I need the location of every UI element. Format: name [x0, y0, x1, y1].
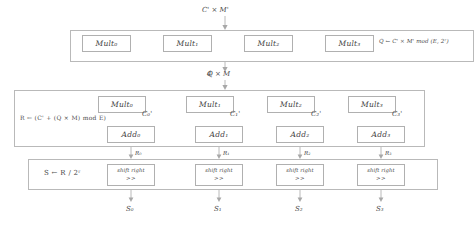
shift-right-unit-2[interactable]: shift right >>: [276, 164, 324, 186]
shift-right-unit-0[interactable]: shift right >>: [107, 164, 155, 186]
q-times-m-label: Q × M: [207, 70, 230, 78]
side-input-c0: C₀': [142, 110, 152, 118]
top-input-label: C' × M': [202, 6, 229, 14]
mult-unit-3[interactable]: Mult₃: [325, 35, 374, 52]
signal-r3: R₃: [385, 150, 391, 156]
side-input-c2: C₂': [311, 110, 321, 118]
signal-r1: R₁: [223, 150, 229, 156]
stage-multiply-formula: Q ← C' × M' mod (E, 2ʳ): [379, 38, 449, 44]
mult-unit-0[interactable]: Mult₀: [82, 35, 131, 52]
output-s1: S₁: [214, 205, 222, 213]
signal-r2: R₂: [304, 150, 310, 156]
shift-right-unit-3[interactable]: shift right >>: [357, 164, 405, 186]
side-input-c3: C₃': [392, 110, 402, 118]
stage2-mult-unit-3[interactable]: Mult₃: [348, 96, 396, 113]
add-unit-1[interactable]: Add₁: [195, 126, 243, 143]
stage-add-formula: R ← (C' + (Q × M) mod E): [20, 114, 106, 121]
output-s3: S₃: [376, 205, 384, 213]
montgomery-dataflow-diagram: C' × M' Mult₀ Mult₁ Mult₂ Mult₃ Q ← C' ×…: [0, 0, 474, 225]
shift-right-unit-1[interactable]: shift right >>: [195, 164, 243, 186]
signal-r0: R₀: [135, 150, 141, 156]
shift-right-op-1: >>: [214, 175, 224, 183]
shift-right-label-2: shift right: [286, 167, 313, 175]
output-s2: S₂: [295, 205, 303, 213]
shift-right-op-0: >>: [126, 175, 136, 183]
shift-right-op-3: >>: [376, 175, 386, 183]
add-unit-0[interactable]: Add₀: [107, 126, 155, 143]
stage2-mult-unit-2[interactable]: Mult₂: [267, 96, 315, 113]
mult-unit-2[interactable]: Mult₂: [244, 35, 293, 52]
stage2-mult-unit-1[interactable]: Mult₁: [186, 96, 234, 113]
side-input-c1: C₁': [230, 110, 240, 118]
shift-right-label-3: shift right: [367, 167, 394, 175]
output-s0: S₀: [126, 205, 134, 213]
add-unit-2[interactable]: Add₂: [276, 126, 324, 143]
stage2-mult-unit-0[interactable]: Mult₀: [98, 96, 146, 113]
add-unit-3[interactable]: Add₃: [357, 126, 405, 143]
stage-shift-formula: S ← R / 2ʳ: [44, 169, 81, 177]
shift-right-label-1: shift right: [205, 167, 232, 175]
mult-unit-1[interactable]: Mult₁: [163, 35, 212, 52]
shift-right-label-0: shift right: [117, 167, 144, 175]
shift-right-op-2: >>: [295, 175, 305, 183]
